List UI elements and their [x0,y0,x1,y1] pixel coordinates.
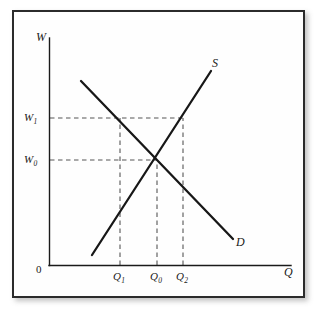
y-tick-label-w1-subscript: 1 [33,117,37,126]
x-tick-label-q0: Q0 [150,271,162,282]
x-tick-label-q0-subscript: 0 [158,276,162,285]
x-tick-label-q2-base: Q [176,270,184,282]
x-tick-label-q1-subscript: 1 [121,276,125,285]
y-tick-label-w1: W1 [24,112,37,123]
origin-label: 0 [36,264,42,275]
figure-root: W Q 0 W1 W0 Q1 Q0 Q2 S D [0,0,319,320]
x-axis-label: Q [284,266,293,278]
x-tick-label-q1: Q1 [113,271,125,282]
supply-curve-label: S [212,57,218,69]
x-tick-label-q2: Q2 [176,271,188,282]
y-tick-label-w0: W0 [24,154,37,165]
y-tick-label-w0-base: W [24,153,33,165]
y-tick-label-w0-subscript: 0 [33,159,37,168]
x-tick-label-q1-base: Q [113,270,121,282]
y-axis-label: W [36,31,46,43]
x-tick-label-q2-subscript: 2 [184,276,188,285]
x-tick-label-q0-base: Q [150,270,158,282]
supply-curve-line [92,71,211,255]
y-tick-label-w1-base: W [24,111,33,123]
axes [49,38,291,266]
demand-curve-label: D [236,236,245,248]
reference-lines [50,118,183,265]
